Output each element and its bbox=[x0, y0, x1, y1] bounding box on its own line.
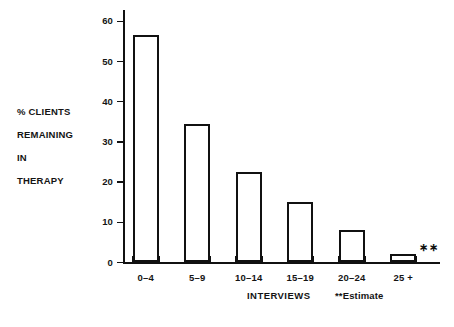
x-axis-label-5: 25 + bbox=[377, 272, 429, 283]
y-axis-tick-label: 40 bbox=[91, 96, 113, 107]
y-axis-tick bbox=[117, 61, 123, 63]
bar-chart-figure: % CLIENTS REMAINING IN THERAPY 010203040… bbox=[0, 0, 454, 327]
y-axis-tick bbox=[117, 21, 123, 23]
y-axis-tick bbox=[117, 141, 123, 143]
bar-20-24 bbox=[339, 230, 365, 263]
y-axis-tick-label: 20 bbox=[91, 176, 113, 187]
bar-0-4 bbox=[133, 35, 159, 263]
bar-25 bbox=[390, 254, 416, 262]
x-axis-label-0: 0–4 bbox=[120, 272, 172, 283]
x-axis-label-4: 20–24 bbox=[326, 272, 378, 283]
y-axis-tick-label: 60 bbox=[91, 15, 113, 26]
y-axis-tick-label: 0 bbox=[91, 257, 113, 268]
bar-10-14 bbox=[236, 172, 262, 263]
y-axis-tick bbox=[117, 181, 123, 183]
plot-area: 0102030405060 0–45–910–1415–1920–2425 + … bbox=[0, 0, 454, 327]
x-axis-label-3: 15–19 bbox=[274, 272, 326, 283]
y-axis-tick bbox=[117, 101, 123, 103]
y-axis-tick-label: 30 bbox=[91, 136, 113, 147]
x-axis-title: INTERVIEWS bbox=[247, 290, 310, 301]
y-axis-tick-label: 50 bbox=[91, 56, 113, 67]
x-axis-label-1: 5–9 bbox=[171, 272, 223, 283]
y-axis-tick-label: 10 bbox=[91, 216, 113, 227]
x-axis-label-2: 10–14 bbox=[223, 272, 275, 283]
estimate-asterisk-marker: ∗∗ bbox=[419, 242, 439, 253]
y-axis-tick bbox=[117, 222, 123, 224]
bar-5-9 bbox=[184, 124, 210, 263]
bar-15-19 bbox=[287, 202, 313, 262]
estimate-footnote: **Estimate bbox=[335, 290, 384, 301]
y-axis-tick bbox=[117, 262, 123, 264]
y-axis-line bbox=[123, 10, 125, 264]
